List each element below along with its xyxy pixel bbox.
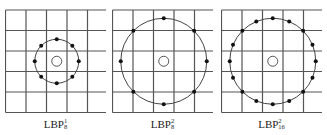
neighbor-point [33, 59, 37, 63]
neighbor-point [228, 59, 232, 63]
neighbor-point [192, 90, 196, 94]
neighbor-point [119, 59, 123, 63]
neighbor-point [231, 76, 235, 80]
neighbor-point [39, 44, 43, 48]
neighbor-point [131, 29, 135, 33]
neighbor-point [310, 43, 314, 47]
neighbor-point [55, 37, 59, 41]
neighbor-point [231, 43, 235, 47]
neighbor-point [254, 99, 258, 103]
neighbor-point [205, 59, 209, 63]
neighbor-point [301, 90, 305, 94]
neighbor-point [310, 76, 314, 80]
neighbor-point [240, 29, 244, 33]
neighbor-point [162, 102, 166, 106]
neighbor-point [77, 59, 81, 63]
neighbor-point [287, 20, 291, 24]
neighbor-point [131, 90, 135, 94]
panel-lbp-16-2: LBP216 [221, 0, 322, 135]
neighbor-point [70, 75, 74, 79]
neighbor-point [70, 44, 74, 48]
neighbor-point [162, 16, 166, 20]
panel-lbp-8-2: LBP28 [112, 0, 213, 135]
center-pixel [159, 56, 169, 66]
panel-label: LBP28 [112, 118, 213, 131]
neighbor-point [240, 90, 244, 94]
grid-diagram [112, 0, 213, 115]
neighbor-point [301, 29, 305, 33]
center-pixel [52, 56, 62, 66]
neighbor-point [39, 75, 43, 79]
panel-label: LBP216 [221, 118, 322, 131]
neighbor-point [271, 102, 275, 106]
grid-diagram [5, 0, 106, 115]
neighbor-point [192, 29, 196, 33]
neighbor-point [271, 16, 275, 20]
neighbor-point [287, 99, 291, 103]
neighbor-point [254, 20, 258, 24]
neighbor-point [314, 59, 318, 63]
panel-label: LBP18 [0, 118, 111, 131]
panel-lbp-8-1: LBP18 [5, 0, 106, 135]
center-pixel [268, 56, 278, 66]
grid-diagram [221, 0, 322, 115]
neighbor-point [55, 81, 59, 85]
